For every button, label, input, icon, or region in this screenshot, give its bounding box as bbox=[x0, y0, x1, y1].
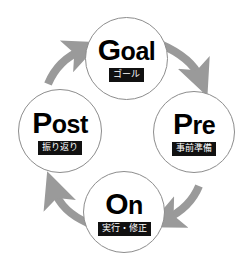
node-pre-title-cap: P bbox=[173, 109, 193, 139]
arrow-pre-to-on bbox=[166, 186, 199, 219]
node-goal[interactable]: Goal ゴール bbox=[85, 17, 168, 100]
node-goal-sublabel: ゴール bbox=[109, 68, 144, 82]
node-goal-title-rest: oal bbox=[121, 39, 156, 64]
cycle-diagram: Goal ゴール Pre 事前準備 On 実行・修正 Post 振り返り bbox=[0, 0, 249, 268]
node-on[interactable]: On 実行・修正 bbox=[83, 171, 165, 253]
node-goal-title-cap: G bbox=[98, 35, 121, 65]
node-goal-title: Goal bbox=[98, 35, 155, 65]
node-on-title: On bbox=[105, 189, 143, 219]
node-on-title-cap: O bbox=[105, 189, 128, 219]
node-on-title-rest: n bbox=[128, 193, 143, 218]
node-pre-title-rest: re bbox=[192, 113, 215, 138]
node-post-title-rest: ost bbox=[52, 112, 88, 137]
node-pre-sublabel: 事前準備 bbox=[172, 142, 216, 156]
node-post[interactable]: Post 振り返り bbox=[18, 89, 102, 173]
arrow-post-to-goal bbox=[48, 50, 82, 84]
node-post-title-cap: P bbox=[32, 108, 52, 138]
node-pre-title: Pre bbox=[173, 109, 215, 139]
node-post-sublabel: 振り返り bbox=[38, 141, 82, 155]
node-post-title: Post bbox=[32, 108, 88, 138]
node-pre[interactable]: Pre 事前準備 bbox=[153, 91, 235, 173]
node-on-sublabel: 実行・修正 bbox=[98, 222, 151, 236]
